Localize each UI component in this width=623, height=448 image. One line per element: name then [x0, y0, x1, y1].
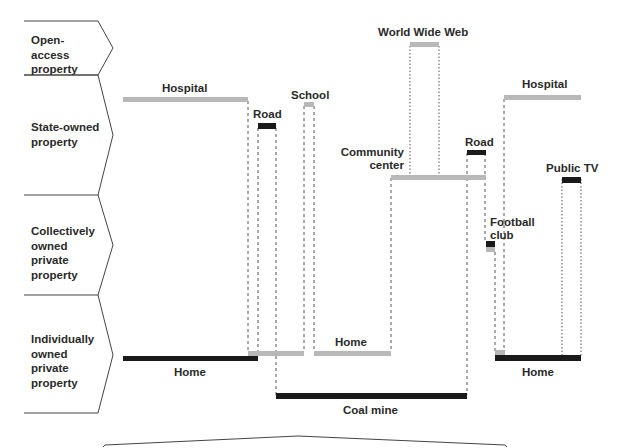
bar-road-school-home: [248, 351, 304, 356]
label-home-left: Home: [174, 366, 206, 379]
category-open-access-line: property: [31, 62, 101, 77]
label-road-1: Road: [253, 108, 282, 121]
label-world-wide-web: World Wide Web: [378, 26, 468, 39]
label-community-center-line: Community: [330, 146, 404, 159]
label-home-right: Home: [522, 366, 554, 379]
label-road-2: Road: [465, 136, 494, 149]
category-individual-line: private: [31, 361, 101, 376]
category-collective-line: owned: [31, 239, 101, 254]
bar-home-right: [495, 355, 581, 361]
bar-hospital-left: [123, 97, 248, 102]
category-collective-line: property: [31, 268, 101, 283]
bar-road-1: [258, 123, 276, 129]
bar-coal-mine: [276, 393, 467, 399]
bar-home-left: [123, 356, 258, 361]
bottom-bracket: [103, 436, 507, 447]
bar-community-center: [391, 175, 486, 180]
category-collective-line: Collectively: [31, 224, 101, 239]
bar-home-mid: [314, 351, 391, 356]
label-school: School: [291, 89, 329, 102]
label-public-tv: Public TV: [546, 162, 598, 175]
category-collectively-owned: Collectively owned private property: [31, 224, 101, 282]
label-football-club-line: Football: [490, 216, 535, 229]
label-coal-mine: Coal mine: [343, 404, 398, 417]
category-individual-line: Individually: [31, 332, 101, 347]
label-home-mid: Home: [335, 336, 367, 349]
label-community-center: Community center: [330, 146, 404, 172]
label-hospital-right: Hospital: [522, 78, 567, 91]
label-hospital-left: Hospital: [162, 82, 207, 95]
bar-public-tv: [562, 177, 581, 183]
category-state-owned: State-owned property: [31, 120, 101, 149]
category-individually-owned: Individually owned private property: [31, 332, 101, 390]
category-individual-line: property: [31, 376, 101, 391]
label-community-center-line: center: [330, 159, 404, 172]
category-state-owned-line: State-owned: [31, 120, 101, 135]
category-state-owned-line: property: [31, 135, 101, 150]
category-individual-line: owned: [31, 347, 101, 362]
label-football-club: Football club: [490, 216, 535, 242]
bar-school: [304, 102, 314, 107]
label-football-club-line: club: [490, 229, 535, 242]
bar-road-2: [467, 150, 486, 155]
category-open-access-line: Open-access: [31, 33, 101, 62]
bar-world-wide-web: [410, 42, 439, 47]
bar-football-club-light: [486, 247, 495, 252]
dotted-connectors: [410, 46, 581, 356]
category-collective-line: private: [31, 253, 101, 268]
category-open-access: Open-access property: [31, 33, 101, 77]
bar-hospital-right: [504, 95, 581, 100]
